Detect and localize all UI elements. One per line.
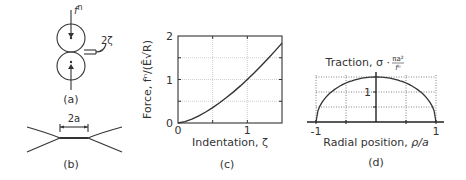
panel-d-caption: (d) xyxy=(368,156,384,169)
y-tick-label: 2 xyxy=(166,30,173,43)
panel-a-caption: (a) xyxy=(63,93,78,106)
force-label: fn xyxy=(74,3,83,16)
y-axis-label-denominator: fⁿ xyxy=(395,64,400,72)
x-tick-label: -1 xyxy=(311,125,322,138)
panel-a xyxy=(57,10,106,90)
lower-surface-left xyxy=(27,138,60,152)
arrowhead-up-icon xyxy=(68,64,74,69)
force-indentation-chart: 01012Indentation, ζForce, fⁿ/(Ē√R) xyxy=(141,30,282,149)
y-axis-label-numerator: πa² xyxy=(392,55,404,63)
y-tick-label: 1 xyxy=(166,74,173,87)
panel-b-caption: (b) xyxy=(63,158,79,171)
y-axis-label: Traction, σ · xyxy=(325,56,390,69)
x-axis-label: Indentation, ζ xyxy=(192,136,268,149)
x-tick-label: 0 xyxy=(175,124,182,137)
y-axis-label: Force, fⁿ/(Ē√R) xyxy=(141,40,154,119)
traction-distribution-chart: -111Radial position, ρ/aTraction, σ ·πa²… xyxy=(307,55,444,149)
gap-label: 2ζ xyxy=(101,35,113,46)
x-axis-label: Radial position, ρ/a xyxy=(323,136,429,149)
contact-width-label: 2a xyxy=(68,113,81,124)
figure-canvas: fn 2ζ (a) 2a (b) 01012Indentation, ζForc… xyxy=(0,0,466,180)
x-tick-label: 1 xyxy=(433,125,440,138)
force-curve xyxy=(178,43,282,123)
upper-surface xyxy=(27,127,122,138)
y-tick-label: 0 xyxy=(166,117,173,130)
y-tick-label: 1 xyxy=(364,86,371,99)
lower-surface-right xyxy=(88,138,122,152)
panel-c-caption: (c) xyxy=(220,158,235,171)
panel-b xyxy=(27,124,122,152)
